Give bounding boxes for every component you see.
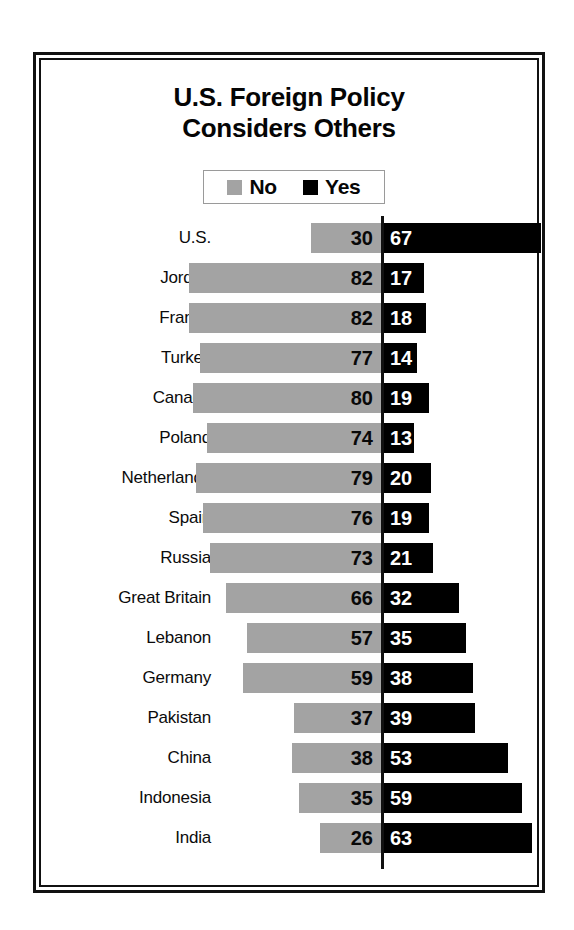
chart-title-line-2: Considers Others xyxy=(41,113,537,144)
chart-row: Great Britain6632 xyxy=(41,578,537,618)
legend-label-no: No xyxy=(249,175,277,199)
value-label-no: 59 xyxy=(333,663,373,693)
chart-row: Spain7619 xyxy=(41,498,537,538)
value-label-no: 77 xyxy=(333,343,373,373)
value-label-no: 38 xyxy=(333,743,373,773)
value-label-yes: 59 xyxy=(390,783,434,813)
value-label-yes: 63 xyxy=(390,823,434,853)
value-label-yes: 13 xyxy=(390,423,434,453)
value-label-yes: 14 xyxy=(390,343,434,373)
row-label: Pakistan xyxy=(41,698,211,738)
value-label-yes: 20 xyxy=(390,463,434,493)
chart-row: Indonesia3559 xyxy=(41,778,537,818)
row-label: China xyxy=(41,738,211,778)
chart-row: Canada8019 xyxy=(41,378,537,418)
chart-row: U.S.3067 xyxy=(41,218,537,258)
chart-row: Jordan8217 xyxy=(41,258,537,298)
chart-row: Pakistan3739 xyxy=(41,698,537,738)
value-label-no: 80 xyxy=(333,383,373,413)
row-label: Canada xyxy=(41,378,211,418)
value-label-yes: 39 xyxy=(390,703,434,733)
value-label-yes: 35 xyxy=(390,623,434,653)
value-label-no: 30 xyxy=(333,223,373,253)
legend-item-no: No xyxy=(227,175,277,199)
value-label-no: 79 xyxy=(333,463,373,493)
legend-swatch-no-icon xyxy=(227,180,242,195)
row-label: India xyxy=(41,818,211,858)
value-label-yes: 18 xyxy=(390,303,434,333)
chart-legend: No Yes xyxy=(203,170,385,204)
row-label: Great Britain xyxy=(41,578,211,618)
value-label-no: 74 xyxy=(333,423,373,453)
value-label-no: 73 xyxy=(333,543,373,573)
value-label-yes: 17 xyxy=(390,263,434,293)
chart-row: China3853 xyxy=(41,738,537,778)
value-label-no: 76 xyxy=(333,503,373,533)
value-label-no: 37 xyxy=(333,703,373,733)
chart-row: France8218 xyxy=(41,298,537,338)
row-label: U.S. xyxy=(41,218,211,258)
value-label-yes: 32 xyxy=(390,583,434,613)
row-label: Netherlands xyxy=(41,458,211,498)
value-label-no: 35 xyxy=(333,783,373,813)
chart-row: Russia7321 xyxy=(41,538,537,578)
plot-area: U.S.3067Jordan8217France8218Turkey7714Ca… xyxy=(41,216,537,876)
chart-outer-frame: U.S. Foreign Policy Considers Others No … xyxy=(33,52,545,893)
value-label-yes: 19 xyxy=(390,383,434,413)
value-label-no: 82 xyxy=(333,303,373,333)
chart-title: U.S. Foreign Policy Considers Others xyxy=(41,82,537,143)
value-label-yes: 53 xyxy=(390,743,434,773)
value-label-no: 26 xyxy=(333,823,373,853)
legend-swatch-yes-icon xyxy=(303,180,318,195)
row-label: Poland xyxy=(41,418,211,458)
row-label: Russia xyxy=(41,538,211,578)
chart-row: India2663 xyxy=(41,818,537,858)
row-label: Turkey xyxy=(41,338,211,378)
legend-item-yes: Yes xyxy=(303,175,361,199)
chart-inner-frame: U.S. Foreign Policy Considers Others No … xyxy=(39,58,539,887)
chart-row: Germany5938 xyxy=(41,658,537,698)
row-label: Spain xyxy=(41,498,211,538)
chart-row: Turkey7714 xyxy=(41,338,537,378)
row-label: Lebanon xyxy=(41,618,211,658)
row-label: Germany xyxy=(41,658,211,698)
value-label-no: 57 xyxy=(333,623,373,653)
value-label-yes: 38 xyxy=(390,663,434,693)
value-label-no: 66 xyxy=(333,583,373,613)
row-label: Indonesia xyxy=(41,778,211,818)
chart-row: Netherlands7920 xyxy=(41,458,537,498)
value-label-yes: 19 xyxy=(390,503,434,533)
value-label-yes: 67 xyxy=(390,223,434,253)
value-label-yes: 21 xyxy=(390,543,434,573)
chart-title-line-1: U.S. Foreign Policy xyxy=(41,82,537,113)
row-label: France xyxy=(41,298,211,338)
row-label: Jordan xyxy=(41,258,211,298)
legend-label-yes: Yes xyxy=(325,175,361,199)
chart-row: Lebanon5735 xyxy=(41,618,537,658)
chart-row: Poland7413 xyxy=(41,418,537,458)
value-label-no: 82 xyxy=(333,263,373,293)
